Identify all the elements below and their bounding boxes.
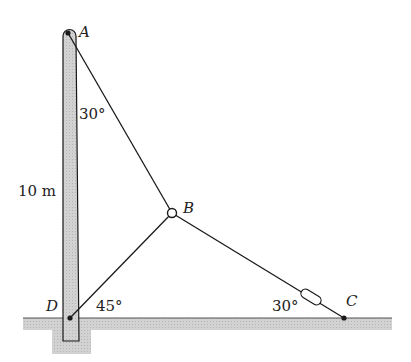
diagram-canvas: A B C D 30° 45° 30° 10 m bbox=[0, 0, 411, 362]
turnbuckle bbox=[299, 287, 322, 306]
cable-AB bbox=[68, 33, 172, 213]
angle-label-A: 30° bbox=[79, 105, 106, 123]
label-B: B bbox=[182, 199, 194, 217]
pin-A bbox=[65, 30, 70, 35]
pin-C bbox=[341, 315, 346, 320]
pole bbox=[63, 30, 79, 342]
label-D: D bbox=[45, 297, 58, 315]
ring-B bbox=[168, 209, 177, 218]
label-A: A bbox=[77, 23, 90, 41]
label-C: C bbox=[346, 292, 358, 310]
angle-label-C: 30° bbox=[272, 297, 299, 315]
pin-D bbox=[67, 315, 72, 320]
angle-label-D: 45° bbox=[96, 297, 123, 315]
height-label: 10 m bbox=[18, 182, 56, 200]
